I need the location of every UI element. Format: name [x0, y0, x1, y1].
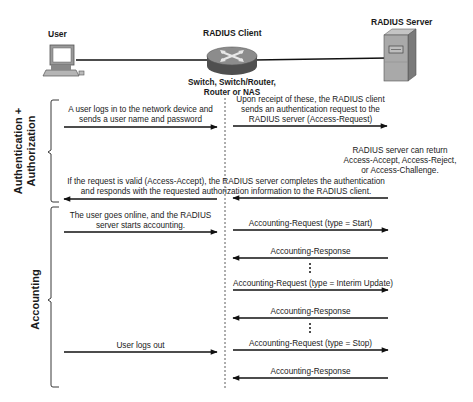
accounting-phase-label: Accounting — [29, 265, 42, 335]
client-sublabel-1: Switch, Switch/Router, — [186, 78, 278, 88]
server-icon — [384, 29, 416, 81]
logout-text: User logs out — [64, 341, 217, 351]
access-request-text-3: RADIUS server (Access-Request) — [233, 115, 388, 125]
user-label: User — [48, 29, 67, 39]
acct-start-text: Accounting-Request (type = Start) — [233, 219, 388, 229]
auth-bracket — [48, 100, 59, 202]
acct-resp2-text: Accounting-Response — [233, 307, 388, 317]
server-note-2: Access-Accept, Access-Reject, — [340, 156, 460, 166]
server-label: RADIUS Server — [371, 17, 432, 27]
login-text-2: sends a user name and password — [64, 115, 217, 125]
access-request-text-2: sends an authentication request to the — [233, 105, 388, 115]
link-client-server — [254, 58, 388, 60]
acct-resp1-text: Accounting-Response — [233, 247, 388, 257]
access-request-text-1: Upon receipt of these, the RADIUS client — [233, 95, 388, 105]
acct-resp3-text: Accounting-Response — [233, 367, 388, 377]
continuation-dots-1 — [309, 263, 311, 273]
server-note-3: or Access-Challenge. — [340, 166, 460, 176]
online-text-1: The user goes online, and the RADIUS — [64, 211, 217, 221]
login-text-1: A user logs in to the network device and — [64, 105, 217, 115]
online-text-2: server starts accounting. — [64, 221, 217, 231]
acct-interim-text: Accounting-Request (type = Interim Updat… — [233, 279, 388, 289]
router-icon — [207, 47, 257, 75]
accounting-bracket — [48, 207, 59, 387]
auth-phase-label: Authentication + Authorization — [12, 106, 38, 196]
server-note-1: RADIUS server can return — [340, 146, 460, 156]
client-label: RADIUS Client — [203, 28, 262, 38]
acct-stop-text: Accounting-Request (type = Stop) — [233, 339, 388, 349]
access-accept-text-2: and responds with the requested authoriz… — [64, 187, 388, 197]
continuation-dots-2 — [309, 323, 311, 333]
access-accept-text-1: If the request is valid (Access-Accept),… — [64, 177, 388, 187]
